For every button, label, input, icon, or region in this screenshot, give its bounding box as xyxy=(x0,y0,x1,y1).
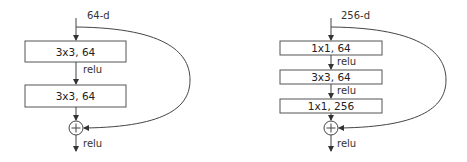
left-layer-1-label: 3x3, 64 xyxy=(56,46,96,58)
left-relu-1: relu xyxy=(83,64,102,75)
right-input-dim-label: 256-d xyxy=(341,10,370,21)
left-relu-out: relu xyxy=(83,138,102,149)
bottleneck-residual-block: 256-d 1x1, 64 relu 3x3, 64 relu 1x1, 256… xyxy=(280,10,446,151)
right-relu-out: relu xyxy=(337,138,356,149)
right-layer-1-label: 1x1, 64 xyxy=(311,42,351,54)
right-relu-2: relu xyxy=(337,85,356,96)
left-layer-1: 3x3, 64 xyxy=(25,41,126,62)
left-layer-2-label: 3x3, 64 xyxy=(56,90,96,102)
basic-residual-block: 64-d 3x3, 64 relu 3x3, 64 relu xyxy=(25,10,190,151)
right-layer-2: 3x3, 64 xyxy=(280,70,382,84)
right-layer-3-label: 1x1, 256 xyxy=(308,100,355,112)
left-add-node xyxy=(69,121,83,135)
left-input-dim-label: 64-d xyxy=(87,10,110,21)
resnet-blocks-diagram: 64-d 3x3, 64 relu 3x3, 64 relu 256-d 1x1… xyxy=(0,0,467,162)
right-relu-1: relu xyxy=(337,56,356,67)
right-layer-2-label: 3x3, 64 xyxy=(311,71,351,83)
right-layer-3: 1x1, 256 xyxy=(280,99,382,113)
left-layer-2: 3x3, 64 xyxy=(25,85,126,107)
right-add-node xyxy=(324,121,338,135)
right-layer-1: 1x1, 64 xyxy=(280,41,382,55)
